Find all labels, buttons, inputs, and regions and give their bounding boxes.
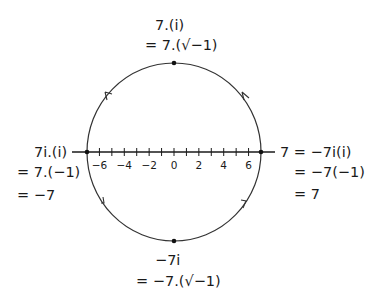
- tick-label: −4: [117, 159, 133, 171]
- top-label-line1: 7.(i): [155, 18, 184, 33]
- arrow-lower-right-icon: [241, 200, 246, 208]
- right-label-line1: 7 = −7i(i): [280, 145, 351, 160]
- point-right: [259, 150, 264, 155]
- point-bottom: [172, 239, 177, 244]
- left-label-line3: = −7: [17, 188, 55, 203]
- arrow-upper-left-icon: [105, 92, 112, 100]
- right-label-line3: = 7: [294, 187, 320, 202]
- tick-label: 6: [245, 159, 252, 171]
- tick-label: 0: [171, 159, 178, 171]
- bottom-label-line2: = −7.(√−1): [136, 274, 221, 289]
- left-label-line1: 7i.(i): [34, 145, 67, 160]
- point-top: [172, 61, 177, 66]
- bottom-label-line1: −7i: [155, 253, 180, 268]
- point-left: [85, 150, 90, 155]
- right-label-line2: = −7(−1): [294, 165, 365, 180]
- left-label-line2: = 7.(−1): [17, 165, 80, 180]
- number-line-labels: −6−4−20246: [92, 159, 253, 171]
- tick-label: 2: [196, 159, 203, 171]
- top-label-line2: = 7.(√−1): [145, 38, 218, 53]
- tick-label: 4: [220, 159, 227, 171]
- tick-label: −2: [141, 159, 156, 171]
- tick-label: −6: [92, 159, 108, 171]
